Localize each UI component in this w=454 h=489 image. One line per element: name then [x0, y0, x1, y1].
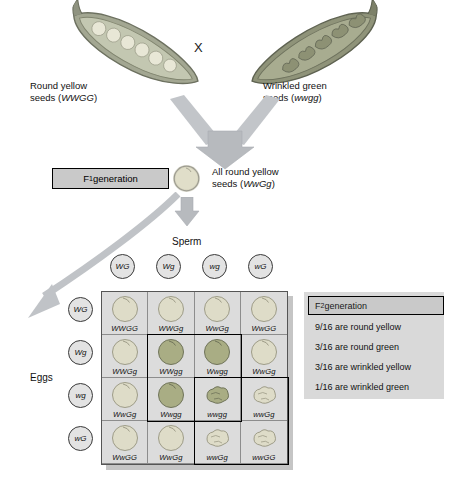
- seed-round-yellow: [110, 337, 140, 371]
- punnett-cell-r2-c3: wwGg: [241, 378, 287, 421]
- parent-right-line2-prefix: seeds (: [263, 92, 294, 103]
- punnett-genotype-r2-c0: WwGg: [113, 410, 136, 419]
- f1-box-label-rest: generation: [93, 173, 138, 184]
- egg-gamete-3-label: wG: [75, 434, 87, 443]
- egg-gamete-1: Wg: [68, 340, 93, 365]
- egg-gamete-3: wG: [68, 426, 93, 451]
- punnett-genotype-r0-c0: WWGG: [111, 324, 138, 333]
- punnett-genotype-r2-c1: Wwgg: [160, 410, 182, 419]
- seed-wrinkled-yellow: [249, 380, 279, 414]
- f1-seed-round-yellow: [173, 165, 200, 192]
- seed-wrinkled-yellow: [249, 423, 279, 457]
- punnett-square-grid: WWGGWWGgWwGgWwGGWWGgWWggWwggWwGgWwGgWwgg…: [101, 291, 288, 465]
- f2-legend-panel: F2 generation 9/16 are round yellow 3/16…: [304, 292, 444, 399]
- seed-wrinkled-yellow: [202, 423, 232, 457]
- seed-round-yellow: [156, 294, 186, 328]
- egg-gamete-2-label: wg: [75, 391, 85, 400]
- sperm-gamete-0: WG: [110, 254, 135, 279]
- sperm-gamete-1-label: Wg: [163, 262, 175, 271]
- f2-ratio-0: 9/16 are round yellow: [315, 322, 401, 332]
- punnett-genotype-r0-c1: WWGg: [158, 324, 183, 333]
- seed-round-yellow: [202, 294, 232, 328]
- f2-heading-rest: generation: [324, 301, 367, 311]
- parent-left-line1: Round yellow: [30, 80, 87, 91]
- punnett-cell-r0-c2: WwGg: [195, 292, 241, 335]
- punnett-cell-r3-c3: wwGG: [241, 421, 287, 464]
- seed-round-green: [202, 337, 232, 371]
- cross-symbol: X: [194, 40, 203, 55]
- punnett-cell-r1-c2: Wwgg: [195, 335, 241, 378]
- punnett-genotype-r1-c2: Wwgg: [206, 367, 228, 376]
- punnett-cell-r3-c0: WwGG: [102, 421, 148, 464]
- f1-description: All round yellow seeds (WwGg): [212, 166, 279, 190]
- punnett-cell-r3-c1: WwGg: [148, 421, 194, 464]
- punnett-genotype-r3-c2: wwGg: [206, 453, 228, 462]
- punnett-cell-r2-c0: WwGg: [102, 378, 148, 421]
- punnett-cell-r2-c2: wwgg: [195, 378, 241, 421]
- seed-round-yellow: [110, 423, 140, 457]
- f2-ratio-2: 3/16 are wrinkled yellow: [315, 362, 411, 372]
- punnett-genotype-r3-c0: WwGG: [112, 453, 137, 462]
- cross-merge-arrow: [150, 95, 300, 170]
- seed-round-yellow: [156, 423, 186, 457]
- punnett-genotype-r3-c3: wwGG: [252, 453, 275, 462]
- parent-left-genotype: WWGG: [61, 92, 94, 103]
- f2-legend-heading: F2 generation: [308, 296, 444, 315]
- seed-round-green: [156, 337, 186, 371]
- parent-right-line2-suffix: ): [318, 92, 321, 103]
- f1-generation-box: F1 generation: [52, 168, 169, 189]
- seed-round-yellow: [110, 380, 140, 414]
- seed-round-yellow: [110, 294, 140, 328]
- egg-gamete-1-label: Wg: [75, 348, 87, 357]
- punnett-genotype-r1-c1: WWgg: [159, 367, 182, 376]
- f1-desc-suffix: ): [272, 178, 275, 189]
- seed-round-green: [156, 380, 186, 414]
- sperm-gamete-3-label: wG: [255, 262, 267, 271]
- punnett-cell-r2-c1: Wwgg: [148, 378, 194, 421]
- punnett-cell-r0-c1: WWGg: [148, 292, 194, 335]
- sperm-gamete-0-label: WG: [116, 262, 130, 271]
- f2-ratio-1: 3/16 are round green: [315, 342, 399, 352]
- punnett-genotype-r1-c0: WWGg: [112, 367, 137, 376]
- punnett-cell-r1-c1: WWgg: [148, 335, 194, 378]
- egg-gamete-0: WG: [68, 297, 93, 322]
- f1-desc-line1: All round yellow: [212, 166, 279, 177]
- f1-to-sperm-arrow: [174, 197, 200, 227]
- f1-genotype: WwGg: [243, 178, 272, 189]
- punnett-genotype-r2-c3: wwGg: [253, 410, 275, 419]
- sperm-gamete-2: wg: [202, 254, 227, 279]
- parent-left-line2-suffix: ): [94, 92, 97, 103]
- punnett-genotype-r0-c2: WwGg: [206, 324, 229, 333]
- eggs-axis-label: Eggs: [30, 372, 53, 384]
- parent-right-genotype: wwgg: [294, 92, 318, 103]
- egg-gamete-0-label: WG: [74, 305, 88, 314]
- parent-left-label: Round yellow seeds (WWGG): [30, 80, 97, 104]
- sperm-gamete-2-label: wg: [209, 262, 219, 271]
- egg-gamete-2: wg: [68, 383, 93, 408]
- parent-right-label: Wrinkled green seeds (wwgg): [263, 80, 327, 104]
- seed-wrinkled-green: [202, 380, 232, 414]
- sperm-axis-label: Sperm: [172, 236, 201, 248]
- seed-round-yellow: [249, 294, 279, 328]
- f1-desc-prefix: seeds (: [212, 178, 243, 189]
- seed-round-yellow: [249, 337, 279, 371]
- punnett-cell-r3-c2: wwGg: [195, 421, 241, 464]
- punnett-genotype-r2-c2: wwgg: [207, 410, 227, 419]
- figure-canvas: X Round yellow seeds (WWGG) Wrinkled gre…: [0, 0, 454, 489]
- punnett-genotype-r1-c3: WwGg: [252, 367, 275, 376]
- punnett-cell-r0-c3: WwGG: [241, 292, 287, 335]
- sperm-gamete-3: wG: [248, 254, 273, 279]
- punnett-cell-r0-c0: WWGG: [102, 292, 148, 335]
- parent-left-line2-prefix: seeds (: [30, 92, 61, 103]
- punnett-cell-r1-c3: WwGg: [241, 335, 287, 378]
- f2-ratio-3: 1/16 are wrinkled green: [315, 382, 409, 392]
- punnett-genotype-r3-c1: WwGg: [159, 453, 182, 462]
- parent-right-line1: Wrinkled green: [263, 80, 327, 91]
- punnett-genotype-r0-c3: WwGG: [251, 324, 276, 333]
- sperm-gamete-1: Wg: [156, 254, 181, 279]
- punnett-cell-r1-c0: WWGg: [102, 335, 148, 378]
